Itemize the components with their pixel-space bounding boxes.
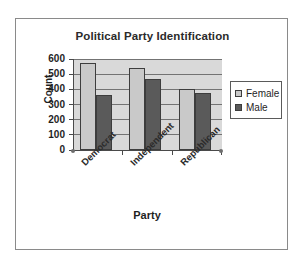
- legend-item-female[interactable]: Female: [235, 86, 277, 100]
- legend-label-female: Female: [246, 88, 279, 99]
- y-axis-tick-label: 100: [37, 130, 65, 140]
- x-axis-title: Party: [73, 209, 221, 221]
- bar-republican-female[interactable]: [179, 89, 195, 150]
- y-axis-tick-label: 0: [37, 145, 65, 155]
- axis-origin-marker: [71, 149, 75, 153]
- chart-title: Political Party Identification: [16, 30, 289, 42]
- y-axis-tick-mark: [69, 104, 73, 105]
- y-axis-tick-mark: [69, 89, 73, 90]
- y-axis-tick-mark: [69, 74, 73, 75]
- gridline: [74, 59, 222, 60]
- y-axis-tick-label: 200: [37, 115, 65, 125]
- y-axis-tick-label: 600: [37, 54, 65, 64]
- y-axis-tick-mark: [69, 119, 73, 120]
- axis-end-marker: [219, 149, 223, 153]
- y-axis-tick-label: 300: [37, 100, 65, 110]
- bar-independent-female[interactable]: [129, 68, 145, 150]
- bar-democrat-female[interactable]: [80, 63, 96, 150]
- gridline: [74, 74, 222, 75]
- y-axis-tick-mark: [69, 134, 73, 135]
- legend-swatch-female-icon: [235, 90, 242, 97]
- legend-label-male: Male: [246, 102, 268, 113]
- y-axis-tick-mark: [69, 59, 73, 60]
- legend-item-male[interactable]: Male: [235, 100, 277, 114]
- y-axis-tick-label: 500: [37, 69, 65, 79]
- chart-figure: Political Party Identification Count Par…: [0, 0, 304, 270]
- chart-frame: Political Party Identification Count Par…: [15, 18, 288, 250]
- legend-swatch-male-icon: [235, 104, 242, 111]
- chart-legend: Female Male: [230, 81, 282, 119]
- x-axis-tick-mark: [122, 151, 123, 155]
- x-axis-tick-mark: [172, 151, 173, 155]
- y-axis-tick-label: 400: [37, 84, 65, 94]
